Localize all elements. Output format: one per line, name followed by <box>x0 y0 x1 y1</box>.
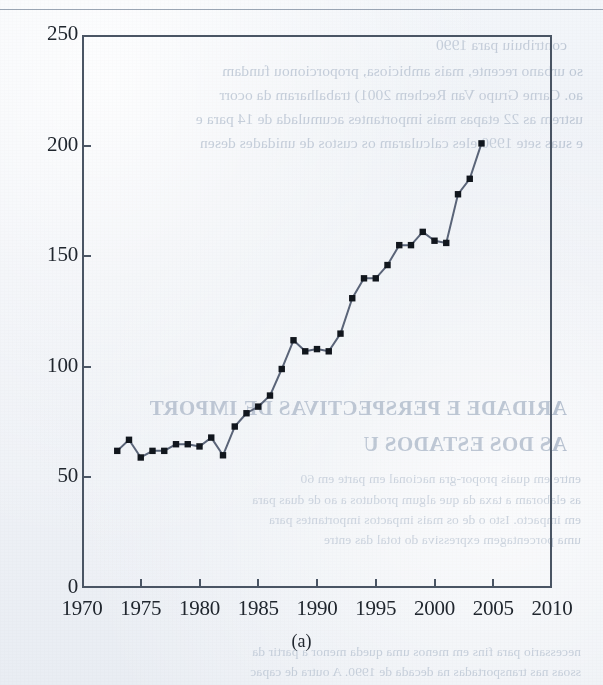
data-series-plot <box>0 0 603 685</box>
scanned-page: contribuiu para 1990so urbano recente, m… <box>0 0 603 685</box>
data-point-marker <box>196 443 202 449</box>
data-point-marker <box>361 275 367 281</box>
data-point-marker <box>467 176 473 182</box>
data-point-marker <box>420 229 426 235</box>
data-point-marker <box>173 441 179 447</box>
data-point-marker <box>114 448 120 454</box>
data-point-marker <box>443 240 449 246</box>
data-point-marker <box>314 346 320 352</box>
data-point-marker <box>431 238 437 244</box>
data-point-marker <box>290 337 296 343</box>
data-point-marker <box>220 452 226 458</box>
data-point-marker <box>337 330 343 336</box>
figure-caption: (a) <box>0 631 603 652</box>
data-point-marker <box>384 262 390 268</box>
data-point-marker <box>149 448 155 454</box>
data-point-marker <box>396 242 402 248</box>
data-point-marker <box>267 392 273 398</box>
data-point-marker <box>326 348 332 354</box>
data-point-marker <box>349 295 355 301</box>
series-markers <box>114 140 485 461</box>
figure-a: 050100150200250 197019751980198519901995… <box>0 0 603 685</box>
data-point-marker <box>255 403 261 409</box>
data-point-marker <box>455 191 461 197</box>
data-point-marker <box>138 454 144 460</box>
data-point-marker <box>232 423 238 429</box>
data-point-marker <box>279 366 285 372</box>
data-point-marker <box>243 410 249 416</box>
data-point-marker <box>478 140 484 146</box>
data-point-marker <box>373 275 379 281</box>
series-line <box>117 143 481 457</box>
data-point-marker <box>126 437 132 443</box>
data-point-marker <box>161 448 167 454</box>
data-point-marker <box>185 441 191 447</box>
data-point-marker <box>302 348 308 354</box>
data-point-marker <box>408 242 414 248</box>
data-point-marker <box>208 434 214 440</box>
